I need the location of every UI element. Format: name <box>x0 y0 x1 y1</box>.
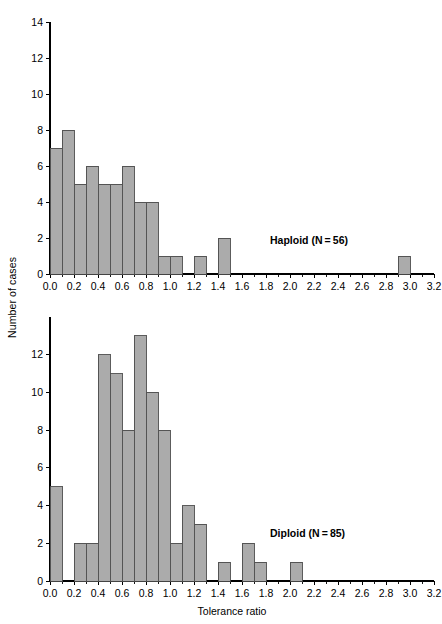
x-tick-label: 2.6 <box>355 587 370 599</box>
histogram-bar <box>194 524 206 581</box>
histogram-bar <box>98 355 110 581</box>
x-tick-label: 2.2 <box>307 280 322 292</box>
x-tick-label: 0.6 <box>115 280 130 292</box>
x-tick-label: 1.4 <box>211 280 226 292</box>
x-tick-label: 0.4 <box>91 587 106 599</box>
y-tick-label: 2 <box>37 232 43 244</box>
x-tick-label: 0.8 <box>139 587 154 599</box>
y-tick-label: 12 <box>31 52 43 64</box>
x-tick-label: 2.0 <box>283 587 298 599</box>
x-tick-label: 1.8 <box>259 280 274 292</box>
y-tick-label: 8 <box>37 124 43 136</box>
y-tick-label: 0 <box>37 268 43 280</box>
x-tick-label: 1.2 <box>187 280 202 292</box>
x-tick-label: 0.2 <box>67 280 82 292</box>
y-tick-label: 0 <box>37 575 43 587</box>
histogram-figure: Number of cases 024681012140.00.20.40.60… <box>0 0 442 624</box>
diploid-histogram-plot: 0246810120.00.20.40.60.81.01.21.41.61.82… <box>22 301 442 601</box>
histogram-bar <box>170 256 182 274</box>
x-tick-label: 2.4 <box>331 587 346 599</box>
histogram-bar <box>62 130 74 274</box>
diploid-panel: 0246810120.00.20.40.60.81.01.21.41.61.82… <box>22 301 442 601</box>
histogram-bar <box>86 543 98 581</box>
histogram-bar <box>50 148 62 274</box>
x-tick-label: 1.6 <box>235 280 250 292</box>
histogram-bar <box>98 184 110 274</box>
x-tick-label: 1.0 <box>163 587 178 599</box>
y-tick-label: 2 <box>37 537 43 549</box>
histogram-bar <box>398 256 410 274</box>
x-tick-label: 0.0 <box>43 280 58 292</box>
y-tick-label: 6 <box>37 461 43 473</box>
x-tick-label: 2.0 <box>283 280 298 292</box>
histogram-bar <box>134 202 146 274</box>
histogram-bar <box>146 392 158 581</box>
x-tick-label: 1.6 <box>235 587 250 599</box>
histogram-bar <box>218 562 230 581</box>
haploid-panel: 024681012140.00.20.40.60.81.01.21.41.61.… <box>22 6 442 301</box>
histogram-bar <box>110 374 122 581</box>
y-tick-label: 8 <box>37 424 43 436</box>
histogram-bar <box>194 256 206 274</box>
histogram-bar <box>158 430 170 581</box>
x-tick-label: 1.0 <box>163 280 178 292</box>
histogram-bar <box>218 238 230 274</box>
x-tick-label: 2.6 <box>355 280 370 292</box>
histogram-bar <box>254 562 266 581</box>
histogram-bar <box>170 543 182 581</box>
x-axis-label: Tolerance ratio <box>198 605 267 617</box>
histogram-bar <box>122 166 134 274</box>
histogram-bar <box>50 487 62 581</box>
x-tick-label: 2.4 <box>331 280 346 292</box>
x-tick-label: 0.0 <box>43 587 58 599</box>
y-tick-label: 6 <box>37 160 43 172</box>
y-tick-label: 4 <box>37 196 43 208</box>
histogram-bar <box>158 256 170 274</box>
series-label: Diploid (N = 85) <box>270 527 345 539</box>
y-tick-label: 14 <box>31 16 43 28</box>
series-label: Haploid (N = 56) <box>270 234 348 246</box>
x-tick-label: 3.2 <box>427 587 442 599</box>
x-tick-label: 1.2 <box>187 587 202 599</box>
haploid-histogram-plot: 024681012140.00.20.40.60.81.01.21.41.61.… <box>22 6 442 301</box>
histogram-bar <box>74 184 86 274</box>
y-axis-label: Number of cases <box>6 257 18 338</box>
y-tick-label: 12 <box>31 348 43 360</box>
y-tick-label: 4 <box>37 499 43 511</box>
x-tick-label: 2.8 <box>379 587 394 599</box>
y-tick-label: 10 <box>31 386 43 398</box>
x-tick-label: 2.2 <box>307 587 322 599</box>
x-axis-label-container: Tolerance ratio <box>22 601 442 619</box>
x-tick-label: 3.0 <box>403 587 418 599</box>
histogram-bar <box>122 430 134 581</box>
x-tick-label: 3.0 <box>403 280 418 292</box>
y-tick-label: 10 <box>31 88 43 100</box>
histogram-bar <box>146 202 158 274</box>
x-tick-label: 0.8 <box>139 280 154 292</box>
x-tick-label: 1.4 <box>211 587 226 599</box>
histogram-bar <box>86 166 98 274</box>
histogram-bar <box>290 562 302 581</box>
x-tick-label: 0.4 <box>91 280 106 292</box>
histogram-bar <box>134 336 146 581</box>
y-axis-label-container: Number of cases <box>2 0 22 595</box>
x-tick-label: 2.8 <box>379 280 394 292</box>
histogram-bar <box>110 184 122 274</box>
x-tick-label: 3.2 <box>427 280 442 292</box>
x-tick-label: 0.6 <box>115 587 130 599</box>
x-tick-label: 0.2 <box>67 587 82 599</box>
histogram-bar <box>74 543 86 581</box>
histogram-bar <box>182 506 194 581</box>
histogram-bar <box>242 543 254 581</box>
x-tick-label: 1.8 <box>259 587 274 599</box>
